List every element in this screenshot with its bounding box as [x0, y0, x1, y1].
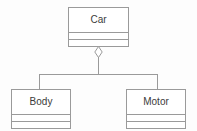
connector-trunk-vertical — [98, 57, 99, 75]
class-operations-compartment-body — [12, 121, 70, 128]
class-attributes-compartment-motor — [127, 114, 185, 121]
class-box-motor[interactable]: Motor — [126, 89, 186, 129]
class-name-body: Body — [12, 90, 70, 114]
connector-horizontal-bar — [39, 74, 158, 75]
class-operations-compartment-car — [69, 39, 128, 46]
connector-drop-to-motor — [157, 74, 158, 89]
class-operations-compartment-motor — [127, 121, 185, 128]
connector-drop-to-body — [39, 74, 40, 89]
class-attributes-compartment-car — [69, 32, 128, 39]
class-name-motor: Motor — [127, 90, 185, 114]
class-name-car: Car — [69, 8, 128, 32]
class-attributes-compartment-body — [12, 114, 70, 121]
class-box-body[interactable]: Body — [11, 89, 71, 129]
uml-class-diagram-canvas: Car Body Motor — [0, 0, 197, 131]
class-box-car[interactable]: Car — [68, 7, 129, 47]
